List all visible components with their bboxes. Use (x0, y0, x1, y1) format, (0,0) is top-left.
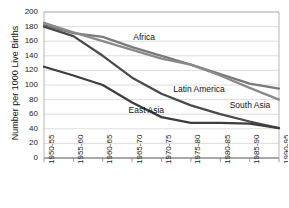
series-label-latin-america: Latin America (173, 84, 225, 94)
x-tick-label: 1990-95 (283, 135, 289, 164)
series-label-africa: Africa (133, 32, 155, 42)
series-label-south-asia: South Asia (230, 100, 271, 110)
x-tick-label: 1985-90 (253, 135, 261, 164)
x-tick-label: 1970-75 (165, 135, 173, 164)
x-tick-label: 1980-85 (224, 135, 232, 164)
x-tick-label: 1955-60 (77, 135, 85, 164)
x-tick-label: 1960-65 (106, 135, 114, 164)
infant-mortality-line-chart: Number per 1000 Live Births 020406080100… (0, 0, 288, 208)
series-label-east-asia: East Asia (129, 105, 164, 115)
x-tick-label: 1950-55 (48, 135, 56, 164)
x-tick-label: 1975-80 (194, 135, 202, 164)
x-tick-label: 1965-70 (136, 135, 144, 164)
series-line-south-asia (44, 23, 279, 100)
